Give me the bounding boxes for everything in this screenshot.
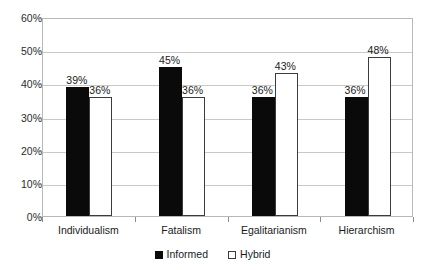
x-axis-category-label: Fatalism [135, 224, 228, 236]
bar-value-label: 45% [150, 55, 189, 66]
x-axis-tick-mark [320, 217, 321, 222]
bar-informed-egalitarianism [252, 97, 275, 216]
bar-value-label: 36% [243, 85, 282, 96]
y-axis-tick-label: 40% [6, 79, 42, 90]
y-axis-tick-label: 10% [6, 179, 42, 190]
bar-value-label: 36% [80, 85, 119, 96]
filled-square-icon [155, 251, 163, 259]
bar-informed-hierarchism [345, 97, 368, 216]
x-axis-category-label: Egalitarianism [228, 224, 321, 236]
chart-legend: InformedHybrid [0, 249, 425, 260]
bar-value-label: 36% [173, 85, 212, 96]
hollow-square-icon [228, 251, 236, 259]
x-axis-category-label: Individualism [42, 224, 135, 236]
bar-value-label: 36% [336, 85, 375, 96]
bar-hybrid-fatalism [182, 97, 205, 216]
x-axis-tick-mark [42, 217, 43, 222]
x-axis-category-label: Hierarchism [320, 224, 413, 236]
bar-informed-individualism [66, 87, 89, 216]
bar-hybrid-individualism [89, 97, 112, 216]
bar-hybrid-hierarchism [368, 57, 391, 216]
legend-entry-hybrid: Hybrid [228, 249, 270, 260]
bar-chart: 0%10%20%30%40%50%60% IndividualismFatali… [0, 0, 425, 270]
legend-label: Hybrid [240, 249, 270, 260]
legend-label: Informed [167, 249, 208, 260]
x-axis-tick-mark [228, 217, 229, 222]
x-axis-tick-mark [413, 217, 414, 222]
bar-value-label: 43% [266, 61, 305, 72]
y-axis: 0%10%20%30%40%50%60% [0, 18, 42, 217]
gridline [43, 52, 412, 53]
bar-value-label: 48% [359, 45, 398, 56]
legend-entry-informed: Informed [155, 249, 208, 260]
y-axis-tick-label: 20% [6, 146, 42, 157]
y-axis-tick-label: 50% [6, 46, 42, 57]
x-axis-tick-mark [135, 217, 136, 222]
y-axis-tick-label: 0% [6, 212, 42, 223]
plot-area [42, 18, 413, 217]
y-axis-tick-label: 60% [6, 13, 42, 24]
y-axis-tick-label: 30% [6, 113, 42, 124]
